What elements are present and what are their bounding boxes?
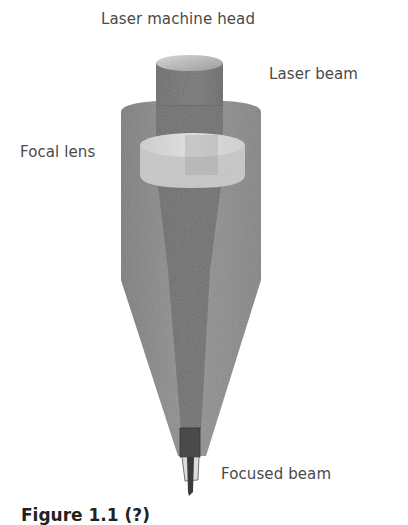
label-focal-lens: Focal lens: [20, 143, 95, 161]
figure-caption: Figure 1.1 (?): [21, 505, 150, 525]
label-laser-beam: Laser beam: [269, 65, 358, 83]
label-focused-beam: Focused beam: [221, 465, 331, 483]
laser-machine-head: [156, 55, 223, 105]
focused-beam: [180, 428, 200, 496]
focal-lens: [140, 133, 245, 188]
label-laser-machine-head: Laser machine head: [101, 10, 255, 28]
